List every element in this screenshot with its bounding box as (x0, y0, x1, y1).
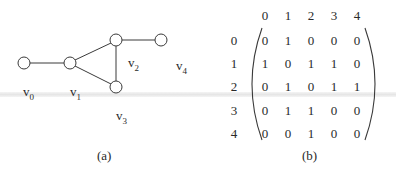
label-v2: v2 (128, 56, 139, 75)
matrix-cell: 0 (327, 127, 341, 140)
matrix-cell: 0 (281, 127, 295, 140)
row-header: 1 (227, 57, 241, 70)
row-header: 3 (227, 104, 241, 117)
col-header: 2 (304, 9, 318, 22)
matrix-cell: 1 (281, 34, 295, 47)
row-header: 0 (227, 34, 241, 47)
label-v1: v1 (70, 85, 81, 104)
matrix-cell: 1 (281, 80, 295, 93)
matrix-cell: 1 (327, 80, 341, 93)
label-v4: v4 (176, 59, 187, 78)
node-v2 (110, 34, 122, 46)
matrix-cell: 0 (258, 80, 272, 93)
matrix-cell: 1 (304, 104, 318, 117)
node-v0 (18, 57, 30, 69)
node-v3 (110, 81, 122, 93)
matrix-cell: 1 (304, 57, 318, 70)
caption-b: (b) (302, 149, 317, 162)
matrix-cell: 0 (258, 104, 272, 117)
matrix-cell: 0 (281, 57, 295, 70)
matrix-cell: 0 (327, 104, 341, 117)
matrix-cell: 0 (350, 127, 364, 140)
row-header: 4 (227, 127, 241, 140)
matrix-cell: 0 (350, 104, 364, 117)
row-header: 2 (227, 80, 241, 93)
label-v3: v3 (116, 109, 127, 128)
matrix-cell: 0 (304, 34, 318, 47)
edge-v1-v3 (75, 66, 111, 84)
matrix-cell: 0 (350, 57, 364, 70)
col-header: 3 (327, 9, 341, 22)
matrix-cell: 0 (304, 80, 318, 93)
matrix-cell: 0 (258, 34, 272, 47)
matrix-cell: 1 (350, 80, 364, 93)
matrix-cell: 1 (281, 104, 295, 117)
right-paren (365, 28, 375, 140)
matrix-cell: 1 (258, 57, 272, 70)
matrix-cell: 1 (304, 127, 318, 140)
col-header: 4 (350, 9, 364, 22)
matrix-cell: 0 (350, 34, 364, 47)
caption-a: (a) (97, 149, 111, 162)
node-v4 (155, 34, 167, 46)
matrix-cell: 0 (327, 34, 341, 47)
matrix-cell: 0 (258, 127, 272, 140)
node-v1 (64, 57, 76, 69)
col-header: 1 (281, 9, 295, 22)
label-v0: v0 (23, 85, 34, 104)
edge-v1-v2 (75, 43, 111, 60)
col-header: 0 (258, 9, 272, 22)
matrix-cell: 1 (327, 57, 341, 70)
